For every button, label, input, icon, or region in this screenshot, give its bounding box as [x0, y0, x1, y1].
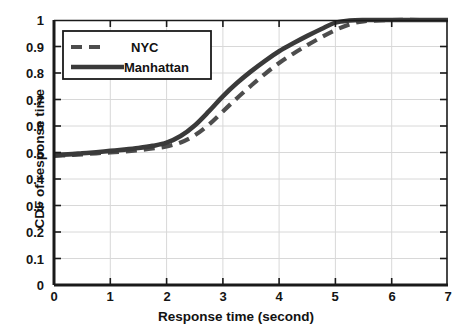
- y-tick-label-1: 1: [8, 14, 44, 27]
- x-tick-label-3: 3: [207, 290, 239, 303]
- x-tick-label-4: 4: [263, 290, 295, 303]
- y-axis-title: CDF of response time: [33, 39, 47, 279]
- chart-figure: 1 0.9 0.8 0.7 0.6 0.5 0.4 0.3 0.2 0.1 0 …: [0, 0, 472, 330]
- x-tick-label-2: 2: [151, 290, 183, 303]
- legend-label-manhattan: Manhattan: [124, 61, 189, 74]
- x-tick-label-1: 1: [94, 290, 126, 303]
- x-tick-label-0: 0: [38, 290, 70, 303]
- cdf-plot: [0, 0, 472, 330]
- x-tick-label-5: 5: [319, 290, 351, 303]
- legend-label-nyc: NYC: [131, 41, 158, 54]
- x-axis-title: Response time (second): [0, 310, 472, 324]
- x-tick-label-6: 6: [376, 290, 408, 303]
- x-tick-label-7: 7: [432, 290, 464, 303]
